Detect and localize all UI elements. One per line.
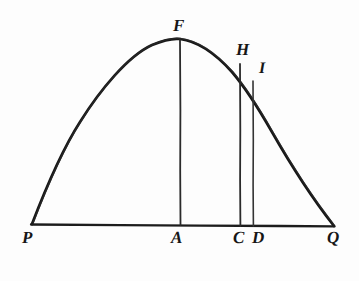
base-line-PQ [31,225,335,227]
vertex-label-p: P [22,229,32,246]
parabolic-arc-ink-overlay [33,38,334,225]
ordinate-FA [180,40,181,225]
vertex-label-h: H [236,41,249,58]
geometry-figure: P A C D Q F H I [0,0,359,281]
vertex-label-q: Q [327,229,339,246]
vertex-label-i: I [259,61,265,77]
vertex-label-c: C [233,229,244,246]
parabolic-arc-PFQ [32,39,334,226]
vertex-label-a: A [171,229,182,246]
vertex-label-f: F [173,17,184,34]
vertex-label-d: D [252,229,264,246]
